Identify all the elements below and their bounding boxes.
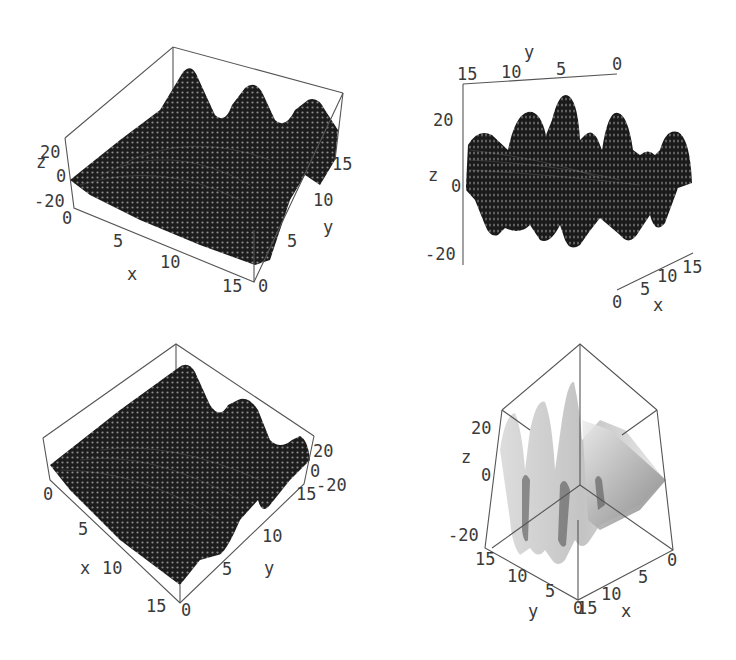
x-axis-label: x (80, 558, 90, 578)
y-tick-0: 0 (258, 276, 268, 296)
box-edge-ledge-right (622, 410, 657, 435)
plot-bottom-left: 20 0 -20 0 5 x 10 15 0 5 10 15 y (43, 344, 347, 620)
y-tick-5: 5 (287, 231, 297, 251)
plot-top-right: y 15 10 5 0 20 z 0 -20 0 5 10 15 x (425, 42, 702, 315)
y-axis-label: y (528, 601, 538, 621)
x-tick-10: 10 (160, 252, 180, 272)
y-tick-5: 5 (556, 59, 566, 79)
x-tick-0: 0 (612, 292, 622, 312)
z-tick-20: 20 (40, 142, 60, 162)
z-axis-label: z (461, 447, 471, 467)
z-tick-neg20: -20 (34, 191, 65, 211)
y-tick-15: 15 (296, 484, 316, 504)
x-tick-0: 0 (43, 484, 53, 504)
z-tick-20: 20 (313, 441, 333, 461)
y-tick-10: 10 (313, 190, 333, 210)
x-tick-10: 10 (657, 266, 677, 286)
x-tick-5: 5 (640, 279, 650, 299)
z-tick-20: 20 (471, 418, 491, 438)
y-tick-15: 15 (332, 154, 352, 174)
y-tick-0: 0 (181, 600, 191, 620)
x-tick-15: 15 (577, 598, 597, 618)
x-tick-5: 5 (113, 231, 123, 251)
y-tick-5: 5 (222, 559, 232, 579)
y-tick-5: 5 (545, 581, 555, 601)
plot-bottom-right: 20 z 0 -20 15 10 5 0 y 0 5 10 15 x (448, 344, 677, 621)
y-tick-10: 10 (262, 526, 282, 546)
x-tick-15: 15 (682, 257, 702, 277)
plot-top-left: z 20 0 -20 0 5 10 15 x 0 5 10 15 y (34, 47, 352, 296)
y-axis-label: y (524, 42, 534, 62)
y-axis-label: y (323, 217, 333, 237)
y-axis-line (463, 74, 617, 84)
y-tick-15: 15 (475, 549, 495, 569)
z-tick-neg20: -20 (425, 244, 456, 264)
x-tick-15: 15 (146, 596, 166, 616)
y-tick-0: 0 (612, 54, 622, 74)
surface-mesh (50, 365, 310, 585)
x-tick-10: 10 (102, 558, 122, 578)
z-tick-20: 20 (433, 110, 453, 130)
x-tick-5: 5 (78, 519, 88, 539)
z-tick-neg20: -20 (448, 525, 479, 545)
z-axis-label: z (428, 165, 438, 185)
z-tick-0: 0 (56, 166, 66, 186)
x-tick-15: 15 (222, 276, 242, 296)
y-tick-10: 10 (507, 566, 527, 586)
z-tick-neg20: -20 (316, 475, 347, 495)
z-tick-0: 0 (451, 176, 461, 196)
x-axis-label: x (127, 264, 137, 284)
x-axis-label: x (621, 601, 631, 621)
z-tick-0: 0 (481, 465, 491, 485)
x-tick-10: 10 (601, 584, 621, 604)
surface-mesh (70, 68, 338, 265)
x-tick-0: 0 (62, 208, 72, 228)
figure-canvas: z 20 0 -20 0 5 10 15 x 0 5 10 15 y y 15 … (0, 0, 736, 660)
x-tick-0: 0 (667, 550, 677, 570)
y-tick-10: 10 (501, 62, 521, 82)
box-edge-vertical-right (335, 93, 343, 160)
x-tick-5: 5 (638, 567, 648, 587)
y-axis-label: y (264, 558, 274, 578)
y-tick-15: 15 (457, 64, 477, 84)
x-axis-label: x (653, 295, 663, 315)
